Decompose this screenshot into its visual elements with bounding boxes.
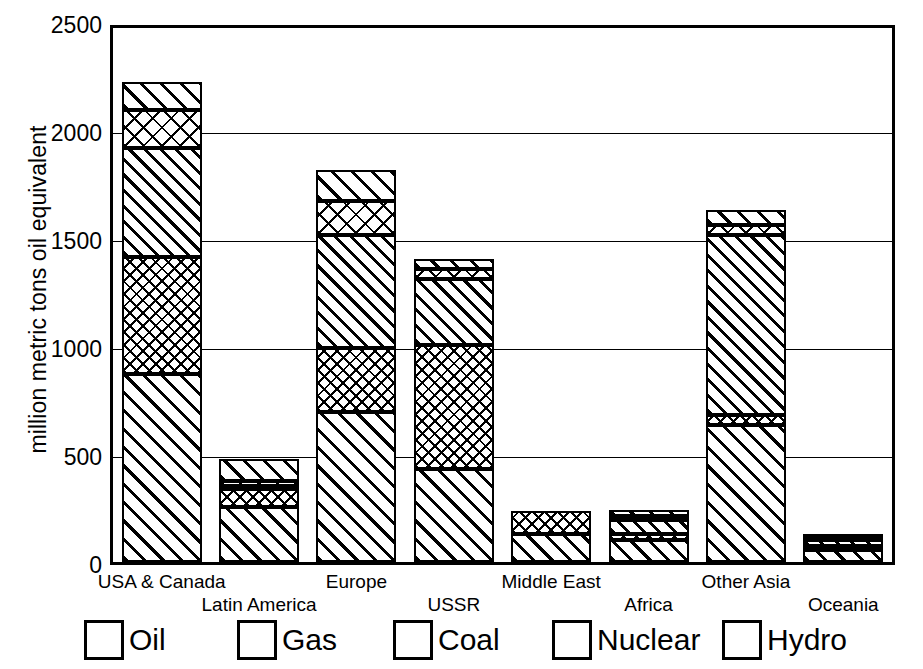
segment-oil — [609, 540, 689, 562]
segment-oil — [511, 534, 591, 562]
segment-gas — [414, 345, 494, 469]
x-label-africa: Africa — [624, 594, 673, 616]
legend-swatch-gas — [237, 620, 277, 660]
y-tick-1000: 1000 — [2, 338, 102, 361]
legend-item-nuclear: Nuclear — [552, 620, 700, 660]
legend-item-oil: Oil — [84, 620, 166, 660]
segment-nuclear — [316, 201, 396, 235]
y-tick-2500: 2500 — [2, 14, 102, 37]
x-label-middle-east: Middle East — [502, 571, 601, 593]
segment-coal — [316, 235, 396, 348]
segment-hydro — [706, 210, 786, 225]
segment-hydro — [122, 82, 202, 110]
x-label-oceania: Oceania — [808, 594, 879, 616]
segment-hydro — [316, 170, 396, 201]
segment-hydro — [803, 534, 883, 538]
x-label-other-asia: Other Asia — [702, 571, 791, 593]
bar-ussr — [414, 259, 494, 562]
segment-oil — [219, 507, 299, 562]
legend-label-gas: Gas — [282, 625, 337, 655]
legend-label-oil: Oil — [129, 625, 166, 655]
bars-layer — [113, 28, 892, 562]
legend-label-nuclear: Nuclear — [597, 625, 700, 655]
legend-item-gas: Gas — [237, 620, 337, 660]
x-label-europe: Europe — [326, 571, 387, 593]
y-tick-1500: 1500 — [2, 230, 102, 253]
legend-swatch-oil — [84, 620, 124, 660]
segment-gas — [316, 348, 396, 412]
chart-figure: million metric tons oil equivalent 05001… — [0, 0, 923, 669]
segment-coal — [414, 279, 494, 345]
segment-nuclear — [219, 481, 299, 486]
segment-nuclear — [706, 225, 786, 235]
segment-gas — [706, 415, 786, 425]
segment-nuclear — [609, 516, 689, 520]
bar-usa-canada — [122, 82, 202, 562]
bar-europe — [316, 170, 396, 562]
segment-hydro — [609, 510, 689, 516]
segment-gas — [803, 546, 883, 550]
bar-oceania — [803, 536, 883, 562]
segment-gas — [219, 489, 299, 507]
segment-gas — [609, 534, 689, 540]
legend-label-coal: Coal — [438, 625, 500, 655]
segment-nuclear — [122, 110, 202, 148]
x-label-ussr: USSR — [427, 594, 480, 616]
legend-swatch-nuclear — [552, 620, 592, 660]
segment-coal — [122, 148, 202, 257]
legend-item-hydro: Hydro — [722, 620, 847, 660]
segment-oil — [803, 550, 883, 562]
legend-swatch-hydro — [722, 620, 762, 660]
y-tick-500: 500 — [2, 446, 102, 469]
x-label-latin-america: Latin America — [202, 594, 317, 616]
bar-middle-east — [511, 511, 591, 562]
segment-coal — [803, 540, 883, 546]
y-tick-2000: 2000 — [2, 122, 102, 145]
segment-hydro — [219, 459, 299, 481]
segment-oil — [122, 374, 202, 562]
y-tick-0: 0 — [2, 554, 102, 577]
segment-nuclear — [414, 269, 494, 279]
x-label-usa-canada: USA & Canada — [98, 571, 226, 593]
bar-africa — [609, 510, 689, 562]
segment-oil — [316, 412, 396, 562]
chart-legend: OilGasCoalNuclearHydro — [0, 620, 923, 669]
segment-oil — [706, 425, 786, 562]
legend-label-hydro: Hydro — [767, 625, 847, 655]
bar-latin-america — [219, 459, 299, 562]
segment-coal — [706, 235, 786, 415]
segment-gas — [122, 257, 202, 374]
legend-swatch-coal — [393, 620, 433, 660]
y-axis-tick-labels: 05001000150020002500 — [0, 25, 102, 565]
segment-hydro — [414, 259, 494, 269]
segment-oil — [414, 469, 494, 562]
bar-other-asia — [706, 210, 786, 562]
segment-gas — [511, 511, 591, 534]
segment-coal — [609, 520, 689, 534]
legend-item-coal: Coal — [393, 620, 500, 660]
